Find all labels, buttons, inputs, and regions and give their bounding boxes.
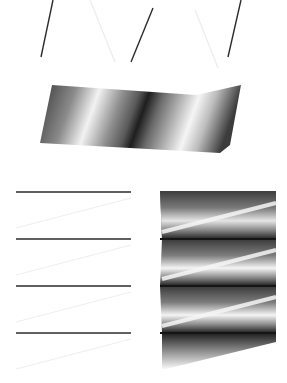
- top-band-panel: [40, 85, 241, 153]
- shaded-fold-strip: [160, 191, 276, 239]
- fold-line: [131, 8, 153, 62]
- fold-line: [41, 0, 53, 57]
- fold-line: [228, 0, 241, 57]
- fold-edge-line: [16, 198, 131, 228]
- shaded-fold-strip: [162, 333, 276, 370]
- shaded-fold-surface: [40, 85, 241, 153]
- top-lines-panel: [41, 0, 241, 68]
- fold-edge-line: [195, 10, 218, 68]
- bottom-band-panel: [160, 191, 276, 370]
- bottom-lines-panel: [16, 192, 131, 369]
- figure-canvas: [0, 0, 287, 383]
- fold-edge-line: [16, 245, 131, 275]
- fold-edge-line: [90, 0, 115, 62]
- shaded-fold-strip: [160, 239, 276, 286]
- fold-edge-line: [16, 292, 131, 322]
- shaded-fold-strip: [160, 286, 276, 333]
- fold-edge-line: [16, 339, 131, 369]
